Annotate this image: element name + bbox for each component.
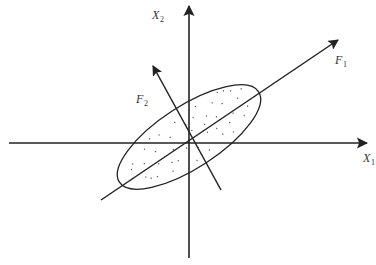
svg-text:F: F <box>334 53 343 67</box>
f2-axis-label: F 2 <box>135 92 148 108</box>
x2-axis-label: X 2 <box>151 8 164 24</box>
svg-text:X: X <box>151 8 160 22</box>
svg-text:F: F <box>135 92 144 106</box>
f1-axis-label: F 1 <box>334 53 347 69</box>
svg-text:1: 1 <box>371 158 375 167</box>
pca-diagram: X 2 F 1 F 2 X 1 <box>0 0 376 265</box>
x1-axis-label: X 1 <box>362 151 375 167</box>
svg-text:2: 2 <box>160 15 164 24</box>
svg-text:1: 1 <box>343 60 347 69</box>
svg-text:X: X <box>362 151 371 165</box>
f1-axis <box>101 40 338 200</box>
f2-axis <box>153 66 221 190</box>
svg-text:2: 2 <box>144 99 148 108</box>
